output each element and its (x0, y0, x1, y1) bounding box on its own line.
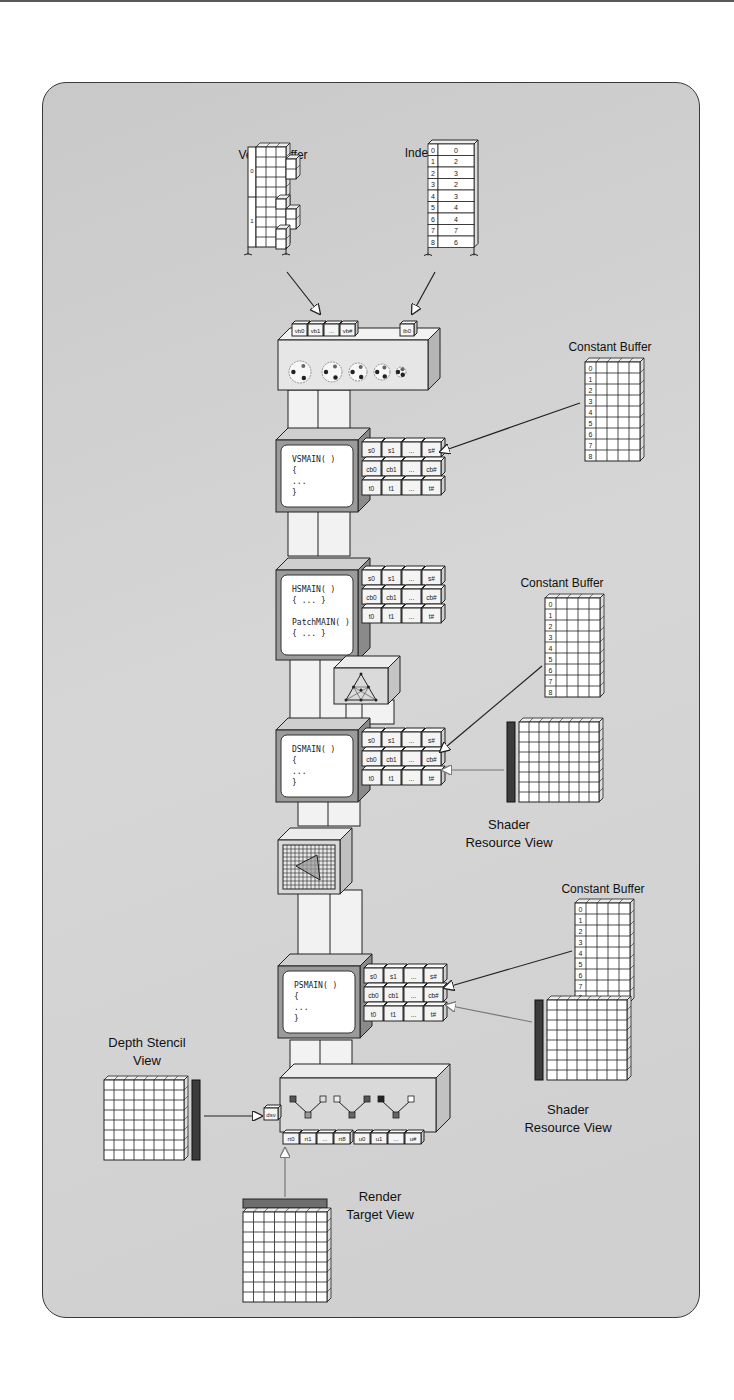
index-buffer-value: 0 (454, 147, 458, 154)
blend-node (320, 1096, 326, 1102)
constant-buffer-row-label: 8 (549, 689, 553, 696)
vertex-buffer-ext (286, 155, 300, 179)
resource-slot-label: t# (429, 485, 435, 492)
resource-slot-label: t1 (389, 485, 395, 492)
resource-slot-label: ... (409, 447, 415, 454)
constant-buffer-row-label: 3 (549, 634, 553, 641)
resource-slot-label: cb0 (368, 992, 379, 999)
resource-slot-label: ... (411, 973, 417, 980)
shader-resource-view-ps (535, 996, 631, 1080)
dsv-label-line2: View (133, 1053, 162, 1068)
hs-resource-slots: s0s1...s#cb0cb1...cb#t0t1...t# (362, 566, 445, 623)
constant-buffer-row-label: 2 (549, 623, 553, 630)
index-buffer-value: 2 (454, 158, 458, 165)
index-buffer-value: 7 (454, 227, 458, 234)
index-buffer-index: 0 (431, 147, 435, 154)
blend-node (378, 1096, 384, 1102)
vertex-buffer-slot-label: vb1 (311, 328, 321, 334)
srv-texture-grid (547, 996, 631, 1080)
index-buffer-slot-label: ib0 (403, 328, 412, 334)
resource-slot-label: s# (430, 973, 437, 980)
shader-code-line: ... (294, 1003, 308, 1012)
blend-node (305, 1112, 311, 1118)
index-buffer-index: 3 (431, 181, 435, 188)
resource-slot-label: cb# (426, 594, 437, 601)
srv-2-label-line2: Resource View (524, 1120, 612, 1135)
resource-slot-label: t0 (369, 613, 375, 620)
constant-buffer-3-label: Constant Buffer (561, 882, 644, 896)
constant-buffer-row-label: 0 (579, 906, 583, 913)
srv-resource-bar (507, 722, 515, 802)
render-target-bar (243, 1199, 327, 1208)
resource-slot-label: s1 (388, 447, 395, 454)
constant-buffer-row-label: 8 (589, 453, 593, 460)
pipeline-connector (298, 800, 360, 826)
resource-slot-label: ... (409, 594, 415, 601)
shader-code-line: { (294, 992, 299, 1001)
ps-resource-slots: s0s1...s#cb0cb1...cb#t0t1...t# (364, 964, 447, 1021)
resource-slot-label: s0 (370, 973, 377, 980)
resource-slot-label: ... (409, 575, 415, 582)
resource-slot-label: t# (431, 1011, 437, 1018)
index-buffer-index: 7 (431, 227, 435, 234)
resource-slot-label: cb# (426, 466, 437, 473)
index-buffer: 001223324354647786 (428, 140, 478, 248)
shader-code-line: } (292, 488, 297, 497)
resource-slot-label: s0 (368, 575, 375, 582)
constant-buffer-row-label: 5 (579, 961, 583, 968)
depth-stencil-view (104, 1076, 200, 1160)
resource-slot-label: t0 (371, 1011, 377, 1018)
shader-code-line: PSMAIN( ) (294, 981, 337, 990)
stand-leg (424, 248, 432, 256)
uav-slot-label: u0 (359, 1136, 366, 1142)
cb-to-ps-arrow (444, 951, 572, 988)
resource-slot-label: cb# (426, 756, 437, 763)
uav-slot-label: u1 (376, 1136, 383, 1142)
resource-slot-label: t1 (389, 775, 395, 782)
constant-buffer-grid (575, 899, 634, 1002)
resource-slot-label: cb0 (366, 594, 377, 601)
constant-buffer-vs: 012345678 (585, 358, 644, 461)
shader-resource-view-ds (507, 718, 603, 802)
constant-buffer-row-label: 0 (549, 601, 553, 608)
index-buffer-value: 3 (454, 170, 458, 177)
constant-buffer-row-label: 7 (549, 678, 553, 685)
index-buffer-index: 8 (431, 239, 435, 246)
resource-slot-label: cb1 (386, 756, 397, 763)
constant-buffer-row-label: 7 (579, 983, 583, 990)
srv-1-label-line1: Shader (488, 817, 531, 832)
resource-slot-label: s1 (388, 575, 395, 582)
render-target-slot-label: rt8 (338, 1136, 346, 1142)
constant-buffer-row-label: 4 (579, 950, 583, 957)
shader-code-line: ... (292, 767, 306, 776)
index-buffer-index: 5 (431, 204, 435, 211)
srv-to-ps-arrow (446, 1005, 532, 1022)
resource-slot-label: t1 (389, 613, 395, 620)
resource-slot-label: ... (411, 1011, 417, 1018)
render-target-slot-label: ... (322, 1136, 327, 1142)
uav-slot-label: ... (393, 1136, 398, 1142)
srv-texture-grid (519, 718, 603, 802)
shader-code-line: VSMAIN( ) (292, 455, 335, 464)
dsv-label-line1: Depth Stencil (108, 1035, 185, 1050)
pipeline-connector (288, 390, 350, 432)
depth-stencil-bar (192, 1080, 200, 1160)
resource-slot-label: cb0 (366, 756, 377, 763)
resource-slot-label: s# (428, 575, 435, 582)
vertex-buffer-slot-label: vb0 (295, 328, 305, 334)
index-buffer-value: 4 (454, 204, 458, 211)
resource-slot-label: cb# (428, 992, 439, 999)
constant-buffer-row-label: 4 (589, 409, 593, 416)
rtv-label-line2: Target View (346, 1207, 414, 1222)
constant-buffer-row-label: 7 (589, 442, 593, 449)
index-buffer-index: 1 (431, 158, 435, 165)
index-buffer-index: 2 (431, 170, 435, 177)
resource-slot-label: s1 (388, 737, 395, 744)
vb-to-ia-arrow (287, 272, 320, 314)
constant-buffer-row-label: 1 (579, 917, 583, 924)
shader-code-line: { (292, 466, 297, 475)
vertex-buffer-slot-label: ... (329, 328, 334, 334)
stand-leg (470, 248, 478, 256)
tessellator-stage (334, 656, 400, 704)
blend-node (349, 1112, 355, 1118)
